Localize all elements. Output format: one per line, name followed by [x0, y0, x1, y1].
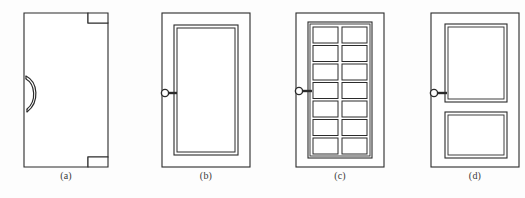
door-figure-d: (d)	[419, 0, 525, 180]
bottom-right-notch-a	[88, 157, 108, 167]
door-drawing-c	[284, 0, 404, 180]
door-figure-b: (b)	[150, 0, 270, 180]
knob-circle-b	[161, 89, 168, 96]
door-slab-outline-b	[162, 13, 250, 167]
door-styles-figure: (a) (b)	[0, 0, 525, 198]
door-figure-c: (c)	[284, 0, 404, 180]
door-slab-outline-d	[431, 13, 519, 167]
caption-c: (c)	[296, 170, 384, 181]
caption-d: (d)	[431, 170, 519, 181]
door-slab-outline-a	[24, 13, 108, 167]
caption-a: (a)	[24, 170, 108, 181]
caption-b: (b)	[162, 170, 250, 181]
door-figure-a: (a)	[0, 0, 160, 180]
knob-circle-d	[430, 89, 437, 96]
door-drawing-b	[150, 0, 270, 180]
door-drawing-d	[419, 0, 525, 180]
knob-circle-c	[295, 87, 302, 94]
door-drawing-a	[0, 0, 160, 180]
top-right-notch-a	[88, 13, 108, 23]
